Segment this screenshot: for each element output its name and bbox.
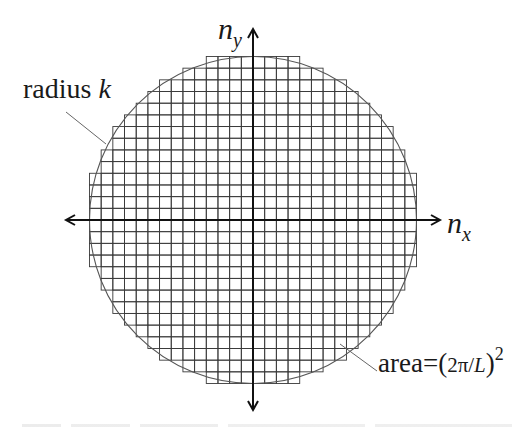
lattice-cell bbox=[113, 255, 125, 267]
lattice-cell bbox=[195, 208, 207, 220]
lattice-cell bbox=[381, 267, 393, 279]
y-axis-var: n bbox=[218, 12, 233, 45]
lattice-cell bbox=[183, 127, 195, 139]
lattice-cell bbox=[276, 232, 288, 244]
lattice-cell bbox=[241, 255, 253, 267]
lattice-cell bbox=[206, 185, 218, 197]
lattice-cell bbox=[265, 103, 277, 115]
lattice-cell bbox=[195, 325, 207, 337]
lattice-cell bbox=[125, 173, 137, 185]
lattice-cell bbox=[300, 185, 312, 197]
lattice-cell bbox=[206, 348, 218, 360]
lattice-cell bbox=[241, 68, 253, 80]
lattice-cell bbox=[241, 103, 253, 115]
lattice-cell bbox=[381, 208, 393, 220]
lattice-cell bbox=[253, 290, 265, 302]
lattice-cell bbox=[171, 302, 183, 314]
lattice-cell bbox=[346, 313, 358, 325]
cropped-caption bbox=[22, 424, 512, 427]
lattice-cell bbox=[265, 162, 277, 174]
lattice-cell bbox=[323, 103, 335, 115]
lattice-cell bbox=[358, 185, 370, 197]
lattice-cell bbox=[300, 290, 312, 302]
lattice-cell bbox=[230, 278, 242, 290]
lattice-cell bbox=[148, 278, 160, 290]
area-expr-var: L bbox=[474, 353, 486, 377]
lattice-cell bbox=[288, 138, 300, 150]
lattice-cell bbox=[125, 267, 137, 279]
lattice-cell bbox=[206, 360, 218, 372]
lattice-cell bbox=[288, 80, 300, 92]
lattice-cell bbox=[148, 197, 160, 209]
lattice-cell bbox=[265, 173, 277, 185]
lattice-cell bbox=[381, 278, 393, 290]
lattice-cell bbox=[335, 162, 347, 174]
lattice-cell bbox=[300, 138, 312, 150]
lattice-cell bbox=[148, 313, 160, 325]
lattice-cell bbox=[136, 150, 148, 162]
lattice-cell bbox=[335, 232, 347, 244]
lattice-cell bbox=[253, 173, 265, 185]
lattice-cell bbox=[358, 313, 370, 325]
lattice-cell bbox=[113, 208, 125, 220]
lattice-cell bbox=[253, 360, 265, 372]
lattice-cell bbox=[300, 348, 312, 360]
lattice-cell bbox=[323, 255, 335, 267]
lattice-cell bbox=[125, 127, 137, 139]
lattice-cell bbox=[358, 243, 370, 255]
lattice-cell bbox=[218, 208, 230, 220]
lattice-cell bbox=[253, 80, 265, 92]
lattice-cell bbox=[253, 302, 265, 314]
lattice-cell bbox=[183, 185, 195, 197]
lattice-cell bbox=[241, 197, 253, 209]
lattice-cell bbox=[253, 150, 265, 162]
lattice-cell bbox=[358, 173, 370, 185]
lattice-cell bbox=[171, 243, 183, 255]
lattice-cell bbox=[265, 92, 277, 104]
lattice-cell bbox=[358, 197, 370, 209]
lattice-cell bbox=[323, 267, 335, 279]
lattice-cell bbox=[171, 290, 183, 302]
lattice-cell bbox=[160, 127, 172, 139]
lattice-cell bbox=[195, 360, 207, 372]
lattice-cell bbox=[335, 127, 347, 139]
radius-leader-line bbox=[66, 112, 106, 144]
lattice-cell bbox=[323, 232, 335, 244]
lattice-cell bbox=[335, 267, 347, 279]
lattice-cell bbox=[311, 208, 323, 220]
lattice-cell bbox=[206, 337, 218, 349]
lattice-cell bbox=[160, 313, 172, 325]
lattice-cell bbox=[195, 255, 207, 267]
lattice-cell bbox=[288, 92, 300, 104]
lattice-cell bbox=[288, 150, 300, 162]
lattice-cell bbox=[300, 103, 312, 115]
lattice-cell bbox=[265, 360, 277, 372]
lattice-cell bbox=[218, 243, 230, 255]
lattice-cell bbox=[195, 348, 207, 360]
lattice-cell bbox=[113, 278, 125, 290]
lattice-cell bbox=[195, 127, 207, 139]
lattice-cell bbox=[335, 185, 347, 197]
lattice-cell bbox=[358, 103, 370, 115]
lattice-cell bbox=[300, 337, 312, 349]
lattice-cell bbox=[160, 278, 172, 290]
lattice-cell bbox=[358, 127, 370, 139]
lattice-cell bbox=[148, 185, 160, 197]
lattice-cell bbox=[230, 185, 242, 197]
lattice-cell bbox=[323, 348, 335, 360]
lattice-cell bbox=[381, 220, 393, 232]
lattice-cell bbox=[276, 348, 288, 360]
lattice-cell bbox=[335, 290, 347, 302]
lattice-cell bbox=[288, 68, 300, 80]
lattice-cell bbox=[323, 337, 335, 349]
lattice-cell bbox=[101, 243, 113, 255]
lattice-cell bbox=[300, 278, 312, 290]
lattice-cell bbox=[311, 127, 323, 139]
lattice-cell bbox=[89, 220, 101, 232]
lattice-cell bbox=[195, 313, 207, 325]
lattice-cell bbox=[300, 127, 312, 139]
lattice-cell bbox=[335, 220, 347, 232]
area-expr-inner: 2π/ bbox=[447, 353, 474, 377]
lattice-cell bbox=[288, 267, 300, 279]
lattice-cell bbox=[253, 278, 265, 290]
